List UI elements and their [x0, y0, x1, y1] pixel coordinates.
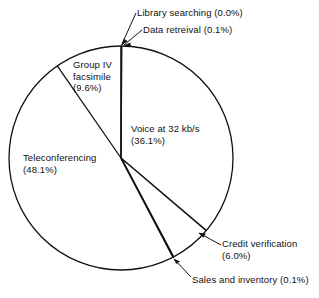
- slice-label-line-2: (36.1%): [131, 135, 200, 147]
- slice-label-line-2: (48.1%): [23, 164, 96, 176]
- slice-boundary-sales-and-inventory: [121, 158, 173, 257]
- slice-label-voice-at-32-kbs: Voice at 32 kb/s (36.1%): [131, 123, 200, 146]
- slice-label-text: Data retreival (0.1%): [143, 24, 232, 36]
- slice-label-line-1: Teleconferencing: [23, 152, 96, 164]
- leader-arrow-sales-and-inventory: [174, 259, 180, 265]
- leader-line-data-retreival: [124, 30, 142, 45]
- slice-label-line-1: Voice at 32 kb/s: [131, 123, 200, 135]
- slice-label-group-iv-facsimile: Group IV facsimile (9.6%): [73, 59, 112, 94]
- slice-label-library-searching: Library searching (0.0%): [137, 7, 243, 19]
- slice-label-line-3: (9.6%): [73, 82, 112, 94]
- slice-label-text: Library searching (0.0%): [137, 7, 243, 19]
- slice-boundary-data-retreival: [121, 46, 122, 158]
- slice-boundary-voice: [121, 158, 206, 231]
- pie-chart-figure: Library searching (0.0%) Data retreival …: [0, 0, 319, 298]
- slice-label-credit-verification: Credit verification (6.0%): [222, 238, 297, 261]
- slice-label-data-retreival: Data retreival (0.1%): [143, 24, 232, 36]
- slice-label-line-2: facsimile: [73, 71, 112, 83]
- slice-label-text: Sales and inventory (0.1%): [192, 274, 309, 286]
- slice-label-line-2: (6.0%): [222, 250, 297, 262]
- slice-label-sales-and-inventory: Sales and inventory (0.1%): [192, 274, 309, 286]
- slice-label-line-1: Group IV: [73, 59, 112, 71]
- slice-label-line-1: Credit verification: [222, 238, 297, 250]
- slice-label-teleconferencing: Teleconferencing (48.1%): [23, 152, 96, 175]
